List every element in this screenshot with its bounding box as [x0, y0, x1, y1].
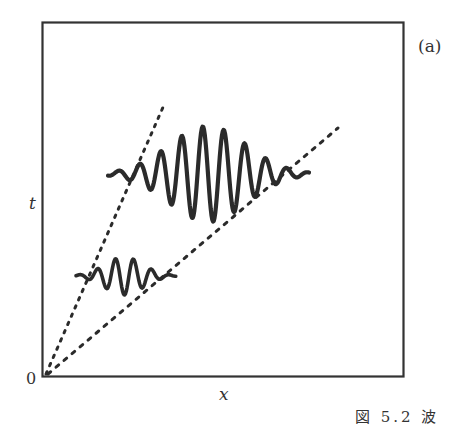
origin-label: 0	[26, 371, 36, 387]
later-wave-packet	[108, 127, 309, 222]
x-axis-label: x	[219, 386, 229, 403]
phase-velocity-line	[46, 105, 164, 374]
panel-label: (a)	[418, 38, 441, 55]
group-velocity-line	[48, 128, 338, 374]
plot-frame	[43, 23, 404, 377]
figure-caption: 図 5.2 波	[355, 410, 439, 425]
t-axis-label: t	[29, 195, 36, 212]
